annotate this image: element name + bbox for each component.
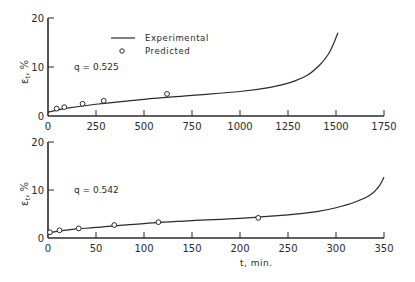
predicted-point	[54, 106, 59, 111]
x-tick-label: 750	[182, 121, 201, 132]
predicted-point	[101, 98, 106, 103]
x-tick-label: 1750	[371, 121, 396, 132]
x-tick-label: 250	[278, 243, 297, 254]
y-tick-label: 10	[31, 62, 44, 73]
top-q-annotation: q = 0.525	[74, 62, 119, 72]
predicted-point	[57, 228, 62, 233]
x-tick-label: 150	[182, 243, 201, 254]
x-tick-label: 1000	[227, 121, 252, 132]
top-ylabel: εt, %	[19, 60, 32, 84]
predicted-point	[165, 92, 170, 97]
y-tick-label: 20	[31, 137, 44, 148]
ylabel-unit: , %	[19, 182, 30, 198]
x-tick-label: 250	[86, 121, 105, 132]
predicted-point	[48, 230, 53, 235]
y-tick-label: 0	[38, 233, 44, 244]
x-tick-label: 1500	[323, 121, 348, 132]
bottom-q-annotation: q = 0.542	[74, 185, 119, 195]
legend-circle-icon	[120, 49, 124, 53]
bottom-panel: 05010015020025030035001020	[31, 137, 393, 254]
y-tick-label: 0	[38, 111, 44, 122]
predicted-point	[256, 215, 261, 220]
x-tick-label: 500	[134, 121, 153, 132]
legend-predicted-label: Predicted	[145, 46, 190, 56]
x-tick-label: 350	[374, 243, 393, 254]
predicted-point	[112, 223, 117, 228]
predicted-point	[80, 101, 85, 106]
x-tick-label: 100	[134, 243, 153, 254]
ylabel-unit: , %	[19, 60, 30, 76]
legend: Experimental Predicted	[111, 33, 209, 56]
legend-experimental-label: Experimental	[145, 33, 209, 43]
predicted-point	[62, 105, 67, 110]
x-tick-label: 200	[230, 243, 249, 254]
bottom-ylabel: εt, %	[19, 182, 32, 206]
predicted-point	[76, 226, 81, 231]
x-axis-label: t, min.	[240, 258, 273, 268]
x-tick-label: 300	[326, 243, 345, 254]
x-tick-label: 50	[90, 243, 103, 254]
x-tick-label: 0	[45, 121, 51, 132]
experimental-curve	[48, 33, 338, 112]
creep-strain-figure: 0250500750100012501500175001020 05010015…	[0, 0, 415, 282]
predicted-point	[156, 220, 161, 225]
y-tick-label: 20	[31, 13, 44, 24]
svg-text:εt, %: εt, %	[19, 60, 32, 84]
x-tick-label: 0	[45, 243, 51, 254]
top-panel: 0250500750100012501500175001020	[31, 13, 396, 132]
y-tick-label: 10	[31, 185, 44, 196]
svg-text:εt, %: εt, %	[19, 182, 32, 206]
x-tick-label: 1250	[275, 121, 300, 132]
